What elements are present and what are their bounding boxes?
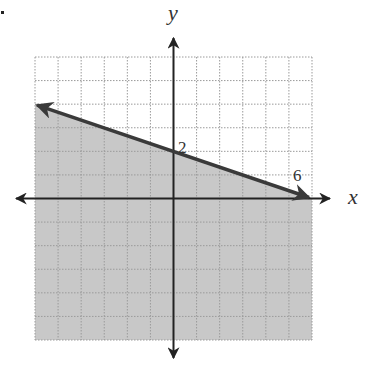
x-intercept-label: 6 bbox=[293, 166, 302, 186]
coordinate-plane bbox=[0, 0, 371, 367]
problem-marker-dot bbox=[1, 11, 4, 14]
y-axis-label: y bbox=[168, 0, 178, 26]
x-axis-label: x bbox=[348, 184, 358, 210]
y-intercept-label: 2 bbox=[178, 138, 187, 158]
inequality-graph: y x 2 6 bbox=[0, 0, 371, 367]
